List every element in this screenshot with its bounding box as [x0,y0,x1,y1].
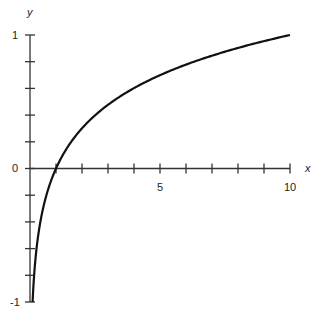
axes [25,35,290,302]
log-plot: y x 1 0 -1 5 10 [0,0,318,316]
y-tick-label-1: 1 [12,29,18,41]
x-tick-label-10: 10 [284,181,296,193]
y-tick-label-0: 0 [12,162,18,174]
x-tick-label-5: 5 [157,181,163,193]
x-axis-title: x [304,162,311,174]
y-tick-label-neg1: -1 [10,296,20,308]
y-axis-title: y [26,6,34,18]
